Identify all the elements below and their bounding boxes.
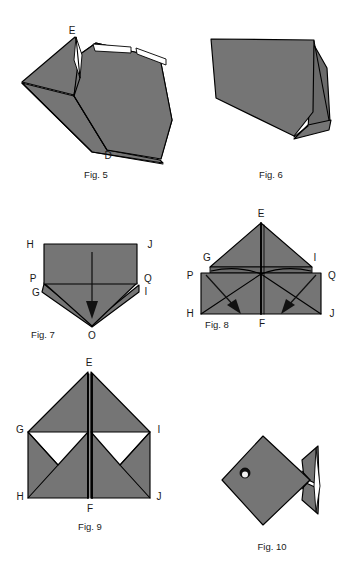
fig9-caption: Fig. 9	[78, 521, 102, 532]
instruction-sheet: E D Fig. 5 Fig. 6 H J P Q G I O Fig. 7	[0, 0, 352, 570]
figure-fig6: Fig. 6	[195, 0, 352, 190]
fig5-caption: Fig. 5	[84, 169, 108, 180]
fig10-body	[222, 436, 310, 525]
fig9-vertex-label-J: J	[157, 491, 162, 502]
fig8-vertex-label-F: F	[259, 318, 265, 329]
fig7-vertex-label-H: H	[26, 239, 33, 250]
fig8-vertex-label-I: I	[314, 252, 317, 263]
fig7-vertex-label-J: J	[148, 239, 153, 250]
fig7-vertex-label-G: G	[32, 287, 40, 298]
fig7-vertex-label-Q: Q	[144, 273, 152, 284]
fig5-vertex-label-E: E	[69, 25, 76, 36]
fig7-vertex-label-O: O	[88, 330, 96, 341]
fig8-vertex-label-P: P	[187, 270, 194, 281]
fig9-upper-right	[91, 372, 150, 432]
figure-fig9: E G I H J F Fig. 9	[0, 350, 195, 540]
fig8-vertex-label-H: H	[186, 308, 193, 319]
figure-fig10: Fig. 10	[200, 410, 352, 570]
fig9-vertex-label-H: H	[16, 491, 23, 502]
fig5-white-gap-top	[93, 44, 131, 53]
fig6-main-body	[211, 39, 314, 136]
fig7-vertex-label-I: I	[145, 286, 148, 297]
fig5-vertex-label-D: D	[104, 150, 111, 161]
fig9-vertex-label-F: F	[87, 503, 93, 514]
fig9-vertex-label-I: I	[158, 424, 161, 435]
fig10-caption: Fig. 10	[257, 541, 286, 552]
fig7-vertex-label-P: P	[30, 273, 37, 284]
fig9-upper-left	[28, 372, 88, 432]
figure-fig5: E D Fig. 5	[0, 0, 200, 190]
fig8-vertex-label-Q: Q	[328, 270, 336, 281]
fig8-caption: Fig. 8	[205, 319, 229, 330]
fish-eye-inner	[242, 472, 248, 478]
fig9-vertex-label-G: G	[16, 424, 24, 435]
figure-fig7: H J P Q G I O Fig. 7	[0, 195, 180, 345]
fig8-vertex-label-G: G	[203, 252, 211, 263]
fig6-caption: Fig. 6	[259, 169, 283, 180]
fig8-vertex-label-E: E	[258, 208, 265, 219]
fig8-vertex-label-J: J	[330, 308, 335, 319]
fig7-upper-rect	[44, 244, 137, 284]
figure-fig8: E G I P Q H J F Fig. 8	[175, 195, 352, 345]
fig9-vertex-label-E: E	[86, 357, 93, 368]
fig7-caption: Fig. 7	[31, 329, 55, 340]
